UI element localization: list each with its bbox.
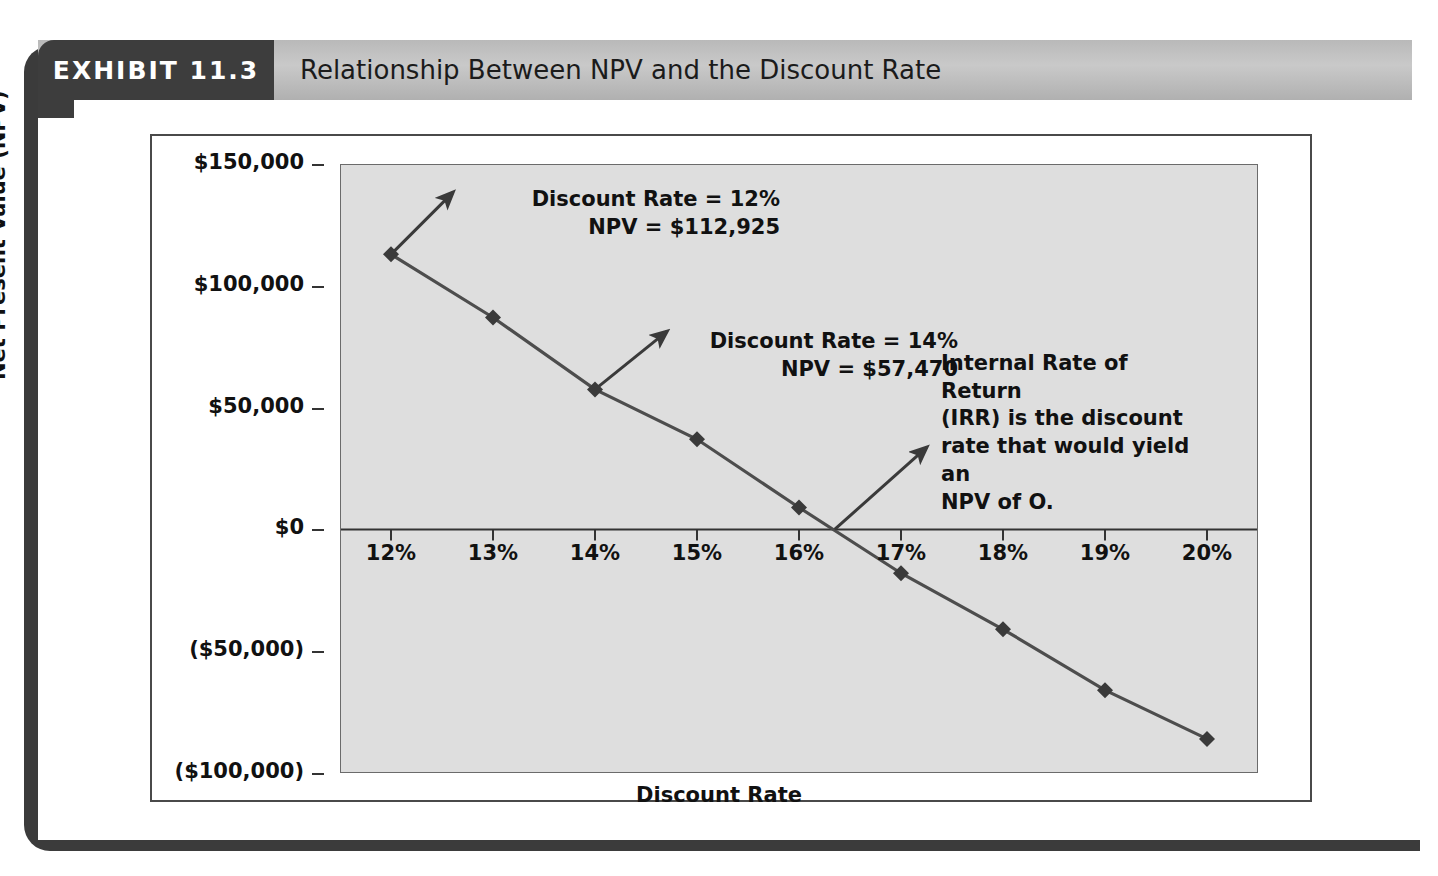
y-axis-tick-group: $150,000$100,000$50,000$0($50,000)($100,…	[150, 0, 328, 876]
exhibit-title: Relationship Between NPV and the Discoun…	[300, 40, 941, 100]
y-axis-tick-label: $0	[275, 515, 304, 539]
exhibit-page: EXHIBIT 11.3 Relationship Between NPV an…	[0, 0, 1438, 876]
x-axis-tick-marks	[391, 529, 1207, 540]
y-axis-tick-mark	[312, 773, 324, 775]
y-axis-tick-label: $50,000	[208, 394, 304, 418]
annotation-14-percent: Discount Rate = 14% NPV = $57,470	[690, 328, 958, 383]
x-axis-title: Discount Rate	[0, 783, 1438, 807]
y-axis-tick-label: ($50,000)	[189, 637, 304, 661]
annotation-12-percent: Discount Rate = 12% NPV = $112,925	[510, 186, 780, 241]
y-axis-title: Net Present Value (NPV)	[0, 90, 10, 380]
x-axis-tick-label: 18%	[978, 541, 1028, 565]
annotation-irr: Internal Rate of Return (IRR) is the dis…	[941, 350, 1191, 516]
x-axis-tick-label: 16%	[774, 541, 824, 565]
y-axis-tick-label: $150,000	[194, 150, 304, 174]
y-axis-tick-label: $100,000	[194, 272, 304, 296]
x-axis-tick-label: 15%	[672, 541, 722, 565]
y-axis-tick-mark	[312, 164, 324, 166]
x-axis-tick-label: 19%	[1080, 541, 1130, 565]
y-axis-tick-mark	[312, 651, 324, 653]
x-axis-tick-label: 13%	[468, 541, 518, 565]
x-axis-tick-label: 14%	[570, 541, 620, 565]
y-axis-tick-mark	[312, 529, 324, 531]
x-axis-tick-label: 17%	[876, 541, 926, 565]
x-axis-tick-label: 20%	[1182, 541, 1232, 565]
y-axis-tick-mark	[312, 286, 324, 288]
y-axis-tick-label: ($100,000)	[175, 759, 304, 783]
y-axis-tick-mark	[312, 408, 324, 410]
x-axis-tick-label: 12%	[366, 541, 416, 565]
